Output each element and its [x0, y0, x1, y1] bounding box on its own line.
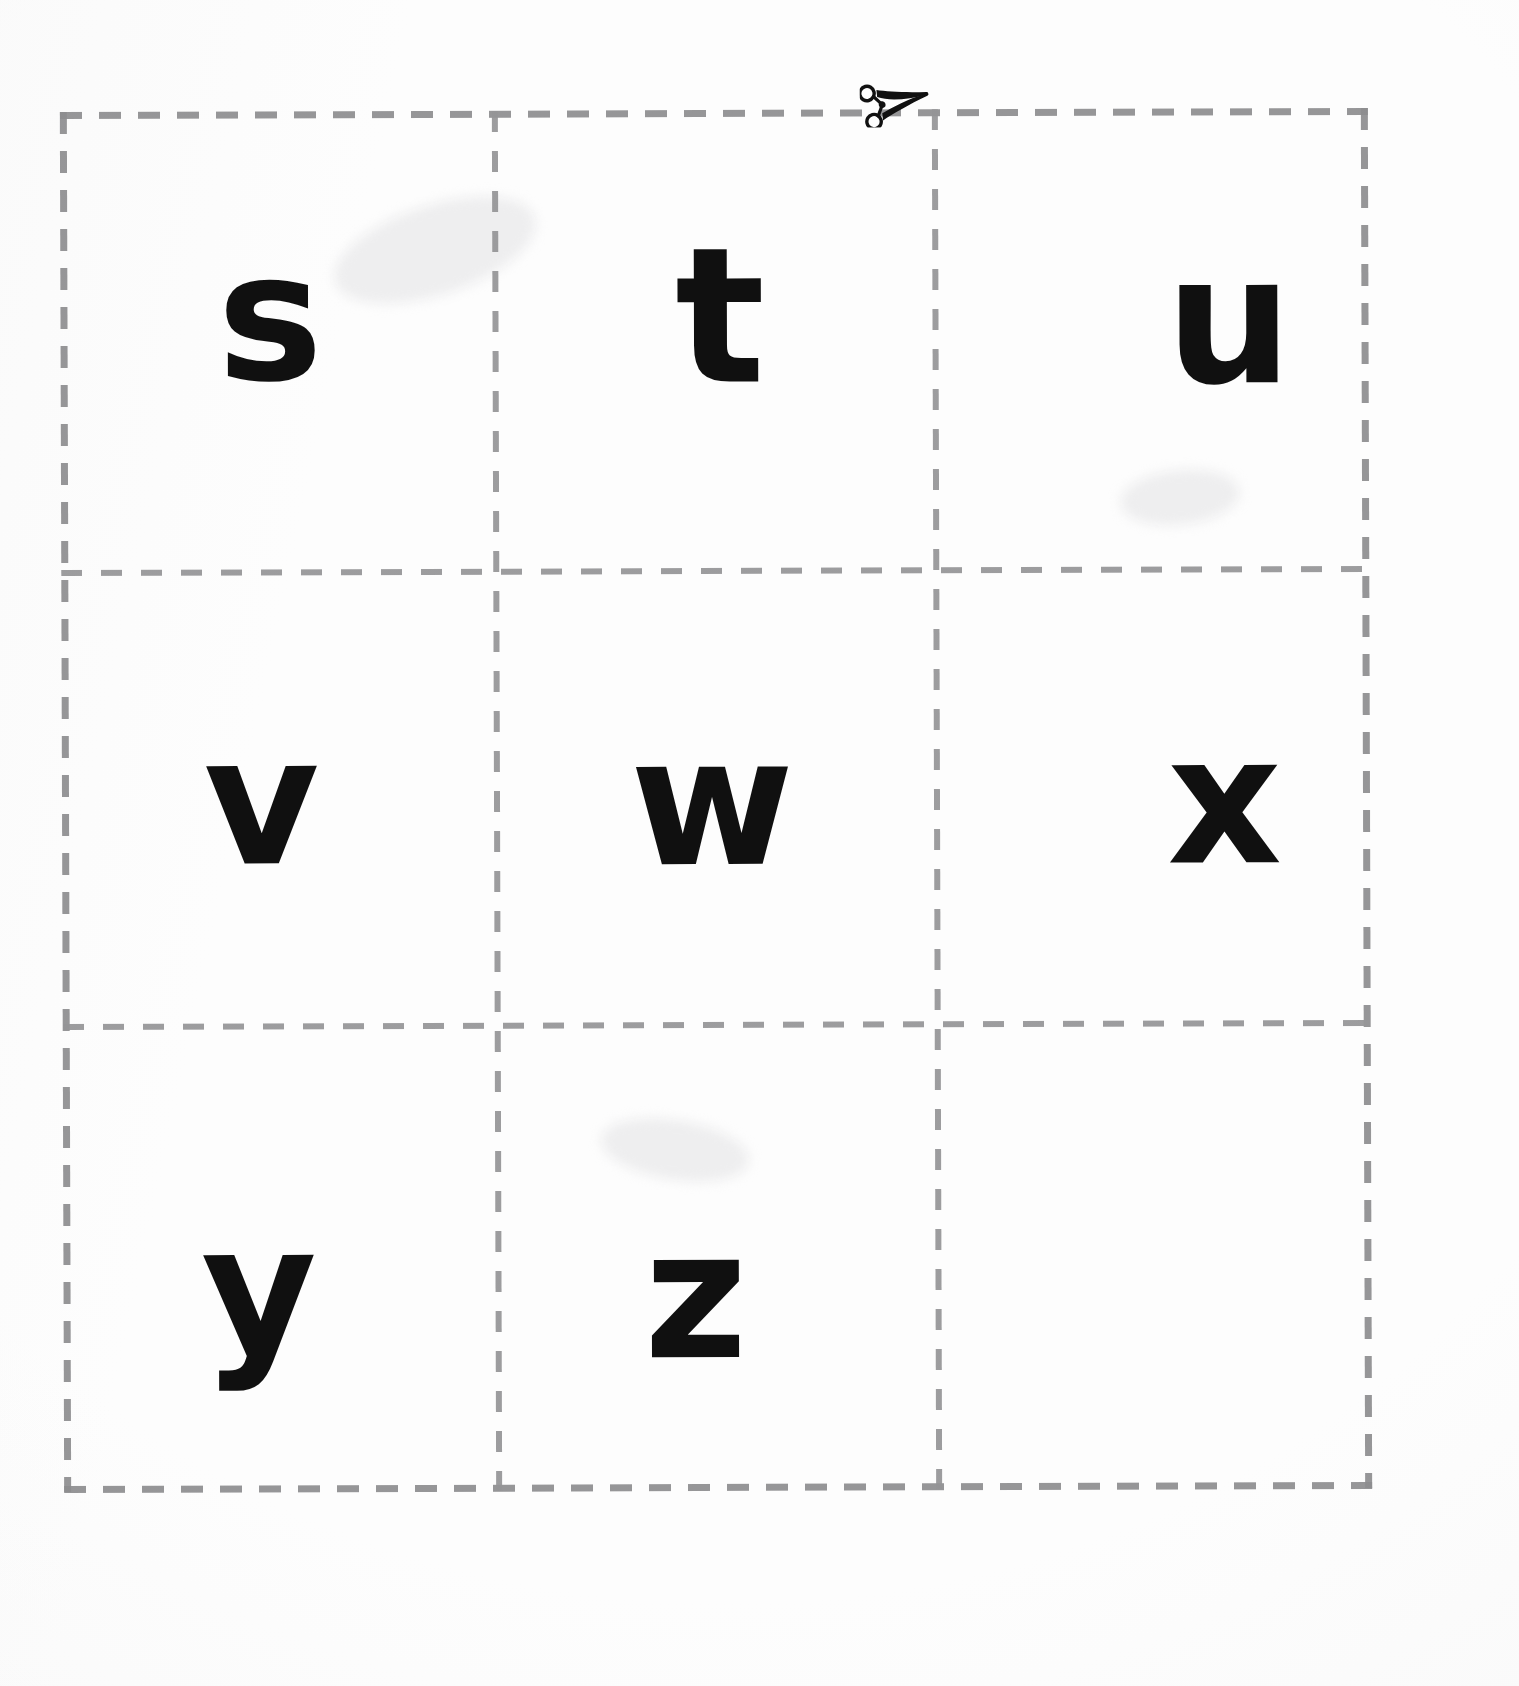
letter-glyph: t: [675, 223, 766, 412]
letter-glyph: v: [203, 713, 320, 891]
flashcard-cell-x[interactable]: x: [934, 566, 1370, 1021]
flashcard-cell-u[interactable]: u: [933, 108, 1369, 567]
flashcard-cell-v[interactable]: v: [61, 569, 497, 1024]
flashcard-cell-blank[interactable]: [936, 1020, 1372, 1489]
flashcard-cell-t[interactable]: t: [495, 109, 934, 568]
flashcard-sheet-page: s t u v w x y z: [0, 0, 1519, 1686]
letter-glyph: x: [1167, 712, 1282, 890]
flashcard-cell-y[interactable]: y: [63, 1023, 499, 1492]
flashcard-cell-s[interactable]: s: [60, 111, 496, 570]
flashcard-cell-z[interactable]: z: [498, 1021, 937, 1490]
letter-glyph: u: [1165, 232, 1292, 410]
flashcard-cell-w[interactable]: w: [496, 567, 935, 1022]
cutout-sheet: s t u v w x y z: [60, 108, 1372, 1492]
letter-glyph: z: [643, 1207, 747, 1385]
letter-glyph: s: [217, 229, 324, 407]
flashcard-grid: s t u v w x y z: [60, 108, 1372, 1492]
letter-glyph: w: [629, 714, 794, 893]
letter-glyph: y: [201, 1202, 318, 1380]
